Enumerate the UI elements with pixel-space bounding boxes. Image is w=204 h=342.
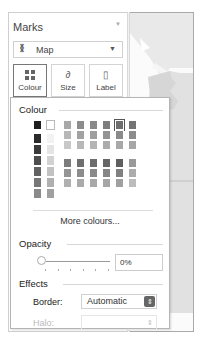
marks-menu-caret-icon[interactable]: ▼	[115, 21, 121, 27]
colour-swatch[interactable]	[33, 177, 42, 188]
colour-swatch[interactable]	[102, 140, 111, 150]
colour-swatch[interactable]	[128, 178, 137, 188]
colour-swatch[interactable]	[63, 130, 72, 140]
colour-swatch[interactable]	[76, 178, 85, 188]
colour-swatch[interactable]	[102, 158, 111, 168]
colour-swatch[interactable]	[128, 168, 137, 178]
colour-swatch[interactable]	[63, 120, 72, 130]
colour-swatch[interactable]	[76, 168, 85, 178]
colour-swatch[interactable]	[33, 120, 42, 130]
colour-swatch[interactable]	[76, 140, 85, 150]
divider	[59, 110, 163, 111]
mark-type-label: Map	[36, 45, 54, 55]
map-icon: ⁑	[20, 45, 24, 54]
colour-swatch[interactable]	[115, 130, 124, 140]
colour-swatch[interactable]	[115, 168, 124, 178]
colour-swatch[interactable]	[115, 140, 124, 150]
colour-swatch[interactable]	[63, 158, 72, 168]
divider	[33, 210, 153, 211]
effects-heading: Effects	[19, 278, 48, 289]
colour-swatch[interactable]	[33, 188, 42, 199]
size-card-label: Size	[52, 83, 84, 92]
colour-swatch[interactable]	[89, 140, 98, 150]
colour-swatch[interactable]	[33, 133, 42, 144]
colour-swatch[interactable]	[63, 168, 72, 178]
select-arrows-icon: ⇕	[144, 317, 155, 328]
colour-swatch[interactable]	[89, 158, 98, 168]
colour-swatch[interactable]	[128, 158, 137, 168]
colour-swatch[interactable]	[89, 168, 98, 178]
colour-swatch[interactable]	[128, 120, 137, 130]
colour-card-label: Colour	[14, 83, 46, 92]
label-icon: ▯	[90, 69, 122, 81]
border-label: Border:	[33, 297, 63, 307]
size-icon: ∂	[52, 69, 84, 81]
opacity-heading: Opacity	[19, 238, 51, 249]
halo-label: Halo:	[33, 318, 54, 328]
colour-popup: Colour More colours... Opacity 0% Effect…	[10, 97, 170, 329]
label-card-button[interactable]: ▯ Label	[89, 64, 123, 97]
border-select-value: Automatic	[87, 296, 127, 306]
halo-select[interactable]: ⇕	[81, 315, 157, 330]
marks-title: Marks	[13, 21, 43, 33]
colour-dots-icon	[25, 70, 35, 80]
colour-swatch[interactable]	[128, 140, 137, 150]
opacity-input[interactable]: 0%	[115, 254, 163, 271]
colour-heading: Colour	[19, 104, 47, 115]
colour-swatch[interactable]	[115, 120, 124, 130]
colour-swatch[interactable]	[102, 178, 111, 188]
colour-swatch[interactable]	[76, 120, 85, 130]
chevron-down-icon: ▼	[109, 45, 116, 52]
opacity-slider-track[interactable]	[46, 261, 110, 262]
select-arrows-icon: ⇕	[144, 296, 155, 307]
colour-swatch[interactable]	[46, 177, 55, 188]
colour-swatch[interactable]	[115, 178, 124, 188]
colour-swatch[interactable]	[76, 130, 85, 140]
colour-card-button[interactable]: Colour	[13, 64, 47, 97]
colour-swatch[interactable]	[128, 130, 137, 140]
colour-swatch[interactable]	[46, 133, 55, 144]
colour-swatch[interactable]	[89, 130, 98, 140]
more-colours-link[interactable]: More colours...	[11, 216, 169, 226]
colour-swatch[interactable]	[102, 120, 111, 130]
colour-swatch[interactable]	[102, 168, 111, 178]
mark-type-dropdown[interactable]: ⁑ Map ▼	[13, 41, 123, 58]
colour-swatch[interactable]	[46, 155, 55, 166]
colour-swatch[interactable]	[102, 130, 111, 140]
divider	[63, 284, 163, 285]
colour-swatch[interactable]	[46, 188, 55, 199]
label-card-label: Label	[90, 83, 122, 92]
divider	[67, 244, 163, 245]
colour-swatch[interactable]	[63, 140, 72, 150]
border-select[interactable]: Automatic ⇕	[81, 294, 157, 309]
opacity-slider-ticks	[45, 269, 109, 271]
colour-swatch[interactable]	[89, 120, 98, 130]
colour-swatch[interactable]	[76, 158, 85, 168]
colour-swatch[interactable]	[46, 144, 55, 155]
colour-swatch[interactable]	[33, 144, 42, 155]
size-card-button[interactable]: ∂ Size	[51, 64, 85, 97]
colour-swatch[interactable]	[115, 158, 124, 168]
opacity-slider-handle[interactable]	[37, 256, 46, 265]
colour-swatch[interactable]	[33, 155, 42, 166]
colour-swatch[interactable]	[46, 120, 55, 130]
colour-swatch[interactable]	[33, 166, 42, 177]
colour-swatch[interactable]	[89, 178, 98, 188]
colour-swatch[interactable]	[46, 166, 55, 177]
colour-swatch[interactable]	[63, 178, 72, 188]
